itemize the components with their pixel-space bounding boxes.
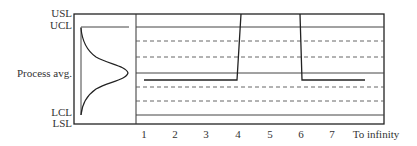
x-tick-2: 2	[172, 129, 178, 140]
x-tick-6: 6	[298, 129, 304, 140]
x-tick-to-infinity: To infinity	[353, 129, 400, 140]
x-tick-7: 7	[329, 129, 335, 140]
x-tick-4: 4	[235, 129, 241, 140]
usl-label: USL	[51, 8, 72, 19]
chart-frame	[74, 14, 384, 124]
x-tick-3: 3	[203, 129, 209, 140]
x-tick-5: 5	[267, 129, 273, 140]
ucl-label: UCL	[50, 20, 72, 31]
process-avg-label: Process avg.	[17, 68, 72, 79]
normal-distribution-curve	[81, 28, 128, 115]
lsl-label: LSL	[52, 118, 72, 129]
process-trace-segment-2	[300, 14, 365, 80]
x-tick-1: 1	[141, 129, 147, 140]
process-trace-segment-1	[144, 14, 241, 80]
